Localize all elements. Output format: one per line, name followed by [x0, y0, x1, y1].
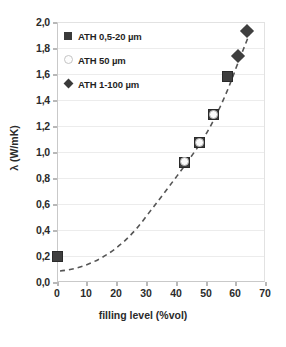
- chart-container: 2,0 1,8 1,6 1,4 1,2 1,0 0,8 0,6 0,4 0,2 …: [0, 0, 286, 347]
- trendline: [0, 0, 286, 347]
